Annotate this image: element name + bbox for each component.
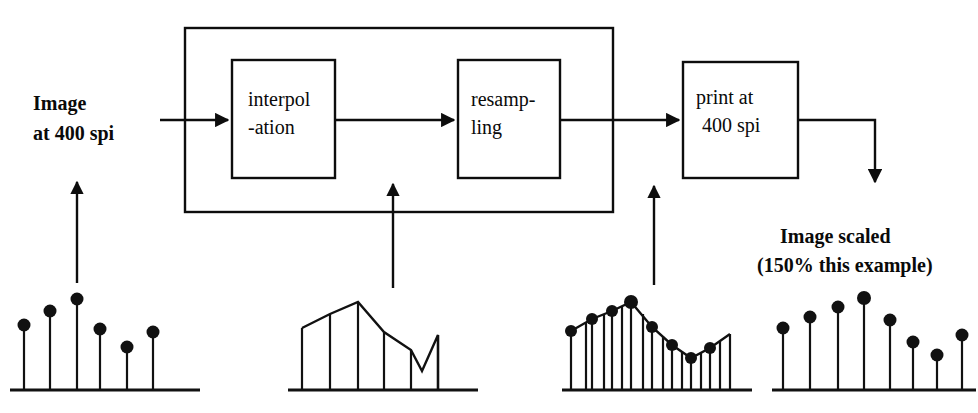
output-label-line1: Image scaled bbox=[780, 225, 891, 248]
input-label-line1: Image bbox=[33, 92, 86, 115]
input-label-line2: at 400 spi bbox=[33, 122, 115, 145]
stem-group bbox=[18, 293, 160, 391]
output-label-line2: (150% this example) bbox=[757, 254, 933, 277]
stem-group bbox=[565, 295, 730, 390]
block-print-label-line1: print at bbox=[696, 86, 754, 109]
plot-signal-resampled bbox=[562, 295, 752, 390]
block-resampling-label-line1: resamp- bbox=[471, 88, 535, 111]
pipeline-diagram: interpol -ation resamp- ling print at 40… bbox=[0, 0, 978, 413]
connector-print-to-output bbox=[798, 120, 875, 182]
plot-signal-original bbox=[10, 293, 200, 391]
plot-signal-printed bbox=[772, 291, 976, 390]
block-interpolation-label-line1: interpol bbox=[248, 88, 311, 111]
block-interpolation-label-line2: -ation bbox=[248, 116, 295, 138]
plot-signal-interpolated bbox=[288, 302, 478, 390]
block-resampling-label-line2: ling bbox=[471, 116, 502, 139]
block-print-label-line2: 400 spi bbox=[702, 114, 761, 137]
interpolated-curve bbox=[302, 302, 438, 390]
diagram-canvas: interpol -ation resamp- ling print at 40… bbox=[0, 0, 978, 413]
stem-group bbox=[777, 291, 969, 390]
